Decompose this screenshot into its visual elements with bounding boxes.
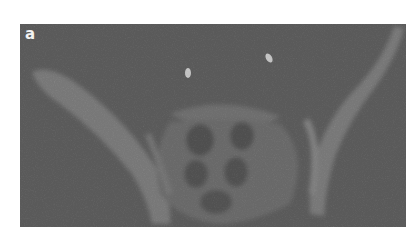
- panel-label: a: [25, 27, 35, 42]
- ct-scan-graphic: [20, 24, 406, 227]
- ct-pelvis-image: a: [20, 24, 406, 227]
